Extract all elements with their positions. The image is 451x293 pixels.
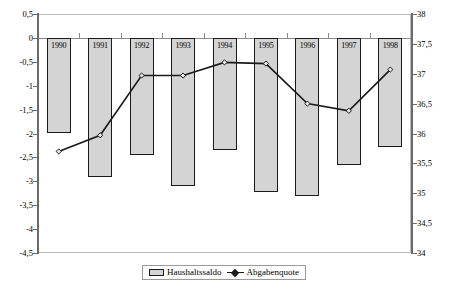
left-axis-tick-label: -4 [26,225,33,234]
legend-item-haushaltssaldo: Haushaltssaldo [149,268,222,277]
line-marker-icon [227,269,244,276]
left-axis-tick-mark [33,253,38,254]
bar: 1997 [337,38,361,165]
chart-legend: Haushaltssaldo Abgabenquote [142,265,306,280]
legend-label-haushaltssaldo: Haushaltssaldo [167,268,222,277]
category-tick-mark [204,33,205,38]
left-axis-tick-mark [33,181,38,182]
left-axis-tick-mark [33,62,38,63]
left-axis-tick-mark [33,157,38,158]
bar-year-label: 1994 [214,41,236,50]
bar-year-label: 1998 [379,41,401,50]
bar: 1990 [47,38,71,134]
right-axis-tick-label: 35,5 [417,159,432,168]
right-axis-tick-label: 34 [417,249,426,258]
right-axis-tick-label: 36 [417,130,426,139]
category-tick-mark [245,33,246,38]
bar-year-label: 1992 [131,41,153,50]
bar: 1992 [130,38,154,155]
legend-label-abgabenquote: Abgabenquote [247,268,299,277]
left-axis-tick-mark [33,134,38,135]
right-axis-tick-label: 38 [417,10,426,19]
category-tick-mark [162,33,163,38]
bar-year-label: 1990 [48,41,70,50]
left-axis-tick-label: 0 [29,34,33,43]
left-axis-tick-mark [33,38,38,39]
chart-container: 0,50-0,5-1-1,5-2-2,5-3-3,5-4-4,5 3837,53… [0,0,451,293]
category-tick-mark [370,33,371,38]
left-axis-tick-label: -3,5 [20,201,33,210]
left-axis-tick-label: 0,5 [22,10,33,19]
left-axis-tick-label: -1,5 [20,106,33,115]
category-tick-mark [287,33,288,38]
right-axis-tick-label: 34,5 [417,219,432,228]
left-axis-tick-mark [33,229,38,230]
legend-item-abgabenquote: Abgabenquote [227,268,299,277]
bar-swatch-icon [149,269,164,276]
right-axis-tick-label: 37 [417,70,426,79]
left-axis-tick-label: -4,5 [20,249,33,258]
left-axis-tick-mark [33,110,38,111]
bar: 1991 [88,38,112,177]
category-tick-mark [328,33,329,38]
left-axis-tick-mark [33,14,38,15]
bar-year-label: 1997 [338,41,360,50]
category-tick-mark [121,33,122,38]
bar: 1998 [378,38,402,147]
left-axis-tick-label: -3 [26,177,33,186]
left-axis-tick-mark [33,86,38,87]
right-axis-tick-label: 36,5 [417,100,432,109]
bar: 1995 [254,38,278,192]
right-axis-tick-label: 37,5 [417,40,432,49]
bar-year-label: 1995 [255,41,277,50]
bar-year-label: 1993 [172,41,194,50]
left-axis-tick-label: -0,5 [20,58,33,67]
left-axis-tick-mark [33,205,38,206]
left-axis-tick-label: -2,5 [20,153,33,162]
bar: 1996 [295,38,319,196]
bar: 1993 [171,38,195,186]
category-tick-mark [79,33,80,38]
bar-year-label: 1996 [296,41,318,50]
left-axis-tick-label: -2 [26,130,33,139]
right-axis-tick-label: 35 [417,189,426,198]
bar: 1994 [213,38,237,150]
bar-year-label: 1991 [89,41,111,50]
left-axis-tick-label: -1 [26,82,33,91]
